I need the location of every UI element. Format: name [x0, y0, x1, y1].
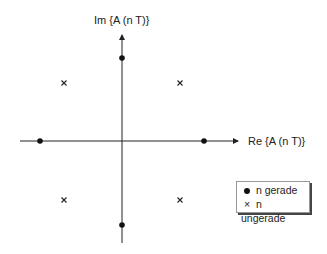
y-axis-label: Im {A (n T)} — [94, 14, 149, 26]
dot-icon — [244, 188, 250, 194]
ungerade-point — [62, 198, 67, 203]
gerade-point — [119, 55, 125, 61]
gerade-point — [201, 138, 207, 144]
legend: n gerade × n ungerade — [236, 181, 310, 213]
cross-icon: × — [241, 197, 253, 211]
legend-label: n gerade — [256, 184, 297, 196]
gerade-point — [37, 138, 43, 144]
gerade-point — [119, 222, 125, 228]
ungerade-point — [178, 81, 183, 86]
x-axis-label: Re {A (n T)} — [248, 135, 305, 147]
ungerade-point — [62, 81, 67, 86]
ungerade-point — [178, 198, 183, 203]
legend-item-ungerade: × n ungerade — [241, 197, 309, 211]
legend-item-gerade: n gerade — [241, 183, 297, 197]
